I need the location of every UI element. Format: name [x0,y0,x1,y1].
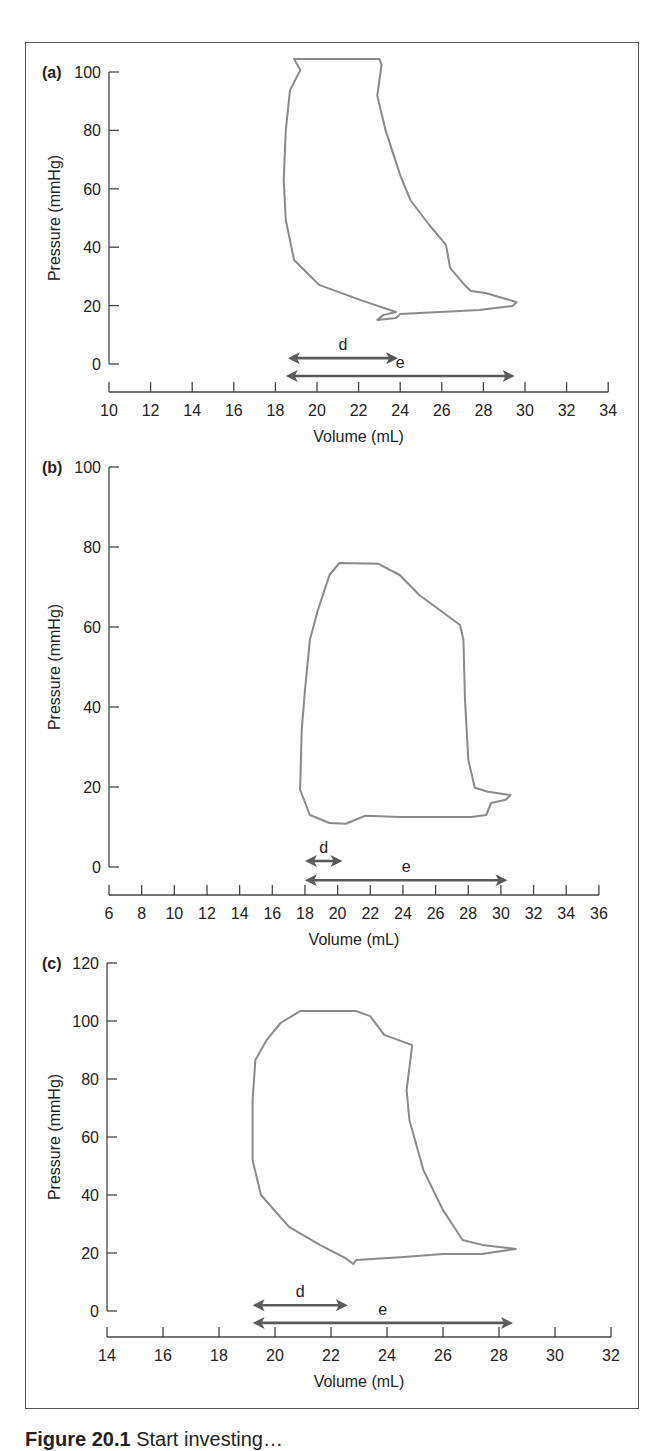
y-tick-label: 20 [83,779,101,796]
caption-text: Start investing… [136,1428,283,1450]
pv-loop-line [300,563,511,824]
x-tick-label: 26 [433,402,451,419]
x-axis-title: Volume (mL) [309,931,400,948]
y-tick-label: 120 [72,955,99,972]
x-tick-label: 24 [394,905,412,922]
x-tick-label: 24 [378,1347,396,1364]
y-tick-label: 80 [81,1071,99,1088]
x-tick-label: 22 [350,402,368,419]
x-tick-label: 12 [198,905,216,922]
pv-loop-line [253,1011,516,1264]
x-tick-label: 20 [266,1347,284,1364]
y-axis-title: Pressure (mmHg) [46,604,63,730]
y-tick-label: 0 [92,356,101,373]
y-tick-label: 40 [81,1187,99,1204]
y-tick-label: 20 [83,298,101,315]
arrow-label-e: e [402,858,411,875]
x-tick-label: 14 [183,402,201,419]
x-tick-label: 28 [459,905,477,922]
x-tick-label: 8 [137,905,146,922]
arrow-label-e: e [396,354,405,371]
y-tick-label: 100 [74,64,101,81]
panel-a: 020406080100(a)Pressure (mmHg)1012141618… [42,59,617,445]
x-tick-label: 28 [475,402,493,419]
x-tick-label: 36 [590,905,608,922]
panel-letter: (b) [42,459,62,476]
x-axis-title: Volume (mL) [313,428,404,445]
y-tick-label: 40 [83,239,101,256]
y-tick-label: 80 [83,539,101,556]
x-tick-label: 18 [210,1347,228,1364]
panel-c: 020406080100120(c)Pressure (mmHg)1416182… [42,955,620,1390]
arrow-label-d: d [296,1283,305,1300]
x-tick-label: 26 [434,1347,452,1364]
x-tick-label: 32 [558,402,576,419]
y-tick-label: 0 [90,1303,99,1320]
y-tick-label: 60 [81,1129,99,1146]
x-tick-label: 30 [492,905,510,922]
y-tick-label: 20 [81,1245,99,1262]
x-tick-label: 10 [165,905,183,922]
x-tick-label: 22 [361,905,379,922]
x-tick-label: 30 [546,1347,564,1364]
x-tick-label: 32 [525,905,543,922]
double-arrow-d: d [288,336,398,364]
x-tick-label: 16 [154,1347,172,1364]
y-axis-title: Pressure (mmHg) [46,155,63,281]
x-tick-label: 6 [105,905,114,922]
arrow-label-d: d [339,336,348,353]
x-tick-label: 12 [142,402,160,419]
x-tick-label: 18 [296,905,314,922]
y-tick-label: 0 [92,859,101,876]
x-tick-label: 20 [329,905,347,922]
figure-caption: Figure 20.1 Start investing… [25,1428,283,1451]
x-tick-label: 16 [263,905,281,922]
x-tick-label: 14 [231,905,249,922]
y-tick-label: 100 [72,1013,99,1030]
panel-b: 020406080100(b)Pressure (mmHg)6810121416… [42,459,608,948]
y-tick-label: 80 [83,122,101,139]
x-axis-title: Volume (mL) [314,1373,405,1390]
x-tick-label: 26 [427,905,445,922]
arrow-label-d: d [319,839,328,856]
x-tick-label: 18 [267,402,285,419]
panel-letter: (c) [42,955,62,972]
caption-label: Figure 20.1 [25,1428,131,1450]
x-tick-label: 34 [599,402,617,419]
y-tick-label: 100 [74,459,101,476]
pv-loop-line [284,59,517,320]
x-tick-label: 24 [391,402,409,419]
x-tick-label: 34 [557,905,575,922]
x-tick-label: 14 [98,1347,116,1364]
x-tick-label: 22 [322,1347,340,1364]
double-arrow-d: d [305,839,343,867]
y-tick-label: 60 [83,181,101,198]
double-arrow-d: d [253,1283,348,1311]
x-tick-label: 10 [100,402,118,419]
y-tick-label: 40 [83,699,101,716]
y-axis-title: Pressure (mmHg) [46,1074,63,1200]
panel-letter: (a) [42,64,62,81]
x-tick-label: 20 [308,402,326,419]
x-tick-label: 32 [602,1347,620,1364]
x-tick-label: 30 [516,402,534,419]
arrow-label-e: e [378,1301,387,1318]
x-tick-label: 16 [225,402,243,419]
x-tick-label: 28 [490,1347,508,1364]
y-tick-label: 60 [83,619,101,636]
